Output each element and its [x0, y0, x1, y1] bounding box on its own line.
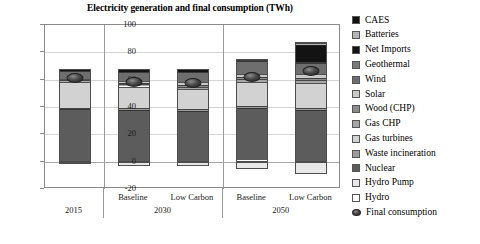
bar-segment [118, 69, 150, 72]
x-axis-scenario-label: Low Carbon [281, 192, 340, 202]
x-axis-group-label: 2015 [44, 205, 103, 215]
x-axis-group-divider [222, 188, 223, 218]
legend-item-label: Hydro [365, 193, 389, 203]
legend-item-label: Gas turbines [365, 134, 413, 144]
stacked-bar[interactable] [236, 25, 268, 187]
bar-segment [177, 162, 209, 167]
bar-segment [59, 108, 91, 109]
bar-segment [177, 111, 209, 161]
x-axis-group-label: 2050 [222, 205, 340, 215]
final-consumption-marker [185, 78, 202, 88]
legend-item[interactable]: Gas CHP [352, 117, 478, 132]
chart-title: Electricity generation and final consump… [40, 3, 340, 13]
legend-item-label: Batteries [365, 30, 399, 40]
stacked-bar[interactable] [177, 25, 209, 187]
bar-segment [295, 83, 327, 108]
caes-swatch [352, 16, 360, 24]
bar-group [177, 25, 209, 187]
plot-area [44, 24, 340, 188]
y-axis-tick-label: 20 [102, 128, 136, 138]
waste-incineration-swatch [352, 150, 360, 158]
y-axis-tick-label: 40 [102, 101, 136, 111]
bar-segment [177, 69, 209, 72]
x-axis-group-label: 2030 [103, 205, 221, 215]
final-consumption-marker [244, 72, 261, 82]
chart-container: Electricity generation and final consump… [0, 0, 480, 244]
legend-item-label: Final consumption [366, 208, 437, 218]
legend-item-label: Geothermal [365, 60, 410, 70]
bar-segment [295, 110, 327, 159]
x-axis-scenario-label: Low Carbon [162, 192, 221, 202]
legend-item-label: Wind [365, 75, 386, 85]
net-imports-swatch [352, 46, 360, 54]
bar-segment [236, 162, 268, 169]
y-axis-tick-mark [40, 161, 44, 162]
bar-segment [236, 108, 268, 159]
bar-segment [236, 59, 268, 60]
x-axis-scenario-label: Baseline [103, 192, 162, 202]
bar-segment [59, 82, 91, 107]
legend-item[interactable]: Final consumption [352, 205, 478, 220]
bar-group [59, 25, 91, 187]
legend-item[interactable]: Net Imports [352, 43, 478, 58]
legend-item[interactable]: Waste incineration [352, 146, 478, 161]
y-axis-tick-label: 80 [102, 46, 136, 56]
legend-item[interactable]: CAES [352, 13, 478, 28]
legend-item-label: CAES [365, 16, 389, 26]
legend-item[interactable]: Batteries [352, 28, 478, 43]
solar-swatch [352, 90, 360, 98]
bar-segment [59, 69, 91, 71]
geothermal-swatch [352, 61, 360, 69]
bar-segment [295, 80, 327, 83]
x-axis-group-divider [103, 188, 104, 218]
y-axis-tick-label: 100 [102, 19, 136, 29]
x-axis-baseline [44, 217, 340, 218]
legend-item-label: Hydro Pump [365, 178, 414, 188]
y-axis-tick-mark [40, 106, 44, 107]
legend-item-label: Solar [365, 90, 385, 100]
nuclear-swatch [352, 164, 360, 172]
bar-segment [177, 89, 209, 109]
stacked-bar[interactable] [295, 25, 327, 187]
bar-segment [295, 43, 327, 45]
bar-group [236, 25, 268, 187]
legend-item-label: Wood (CHP) [365, 104, 415, 114]
y-axis-tick-label: 0 [102, 156, 136, 166]
legend-item[interactable]: Nuclear [352, 161, 478, 176]
bar-segment [295, 45, 327, 63]
bar-segment [59, 162, 91, 164]
wind-swatch [352, 76, 360, 84]
y-axis-tick-mark [40, 51, 44, 52]
bar-segment [295, 108, 327, 110]
final-consumption-marker [66, 73, 83, 83]
category-separator [223, 25, 224, 189]
stacked-bar[interactable] [59, 25, 91, 187]
batteries-swatch [352, 31, 360, 39]
bar-segment [295, 42, 327, 43]
hydro-pump-swatch [352, 179, 360, 187]
gas-chp-swatch [352, 120, 360, 128]
bar-segment [236, 82, 268, 106]
bar-segment [295, 162, 327, 174]
y-axis-tick-mark [40, 24, 44, 25]
legend-item[interactable]: Hydro Pump [352, 176, 478, 191]
bar-segment [295, 62, 327, 63]
y-axis-tick-mark [40, 133, 44, 134]
legend: CAESBatteriesNet ImportsGeothermalWindSo… [352, 13, 478, 220]
gas-turbines-swatch [352, 135, 360, 143]
bar-segment [59, 109, 91, 160]
legend-item[interactable]: Geothermal [352, 57, 478, 72]
bar-group [295, 25, 327, 187]
final-consumption-marker [303, 66, 320, 76]
final-consumption-marker [125, 77, 142, 87]
legend-item[interactable]: Gas turbines [352, 131, 478, 146]
bar-segment [295, 78, 327, 81]
hydro-swatch [352, 194, 360, 202]
legend-item[interactable]: Wind [352, 72, 478, 87]
legend-item-label: Waste incineration [365, 149, 436, 159]
bars-layer [45, 25, 339, 187]
legend-item[interactable]: Solar [352, 87, 478, 102]
legend-item[interactable]: Wood (CHP) [352, 102, 478, 117]
legend-item-label: Net Imports [365, 45, 411, 55]
legend-item[interactable]: Hydro [352, 191, 478, 206]
